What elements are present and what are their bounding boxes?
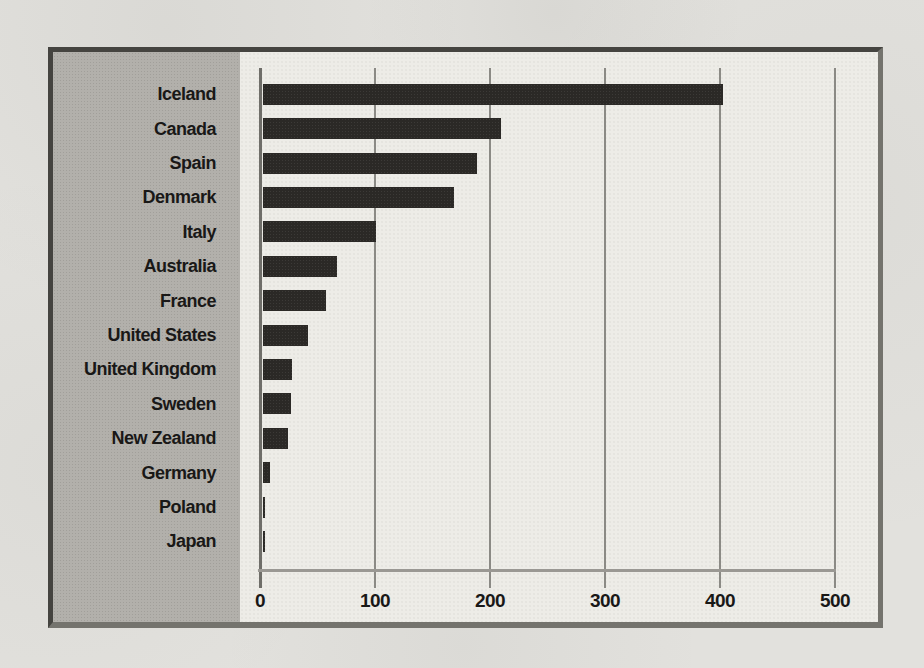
- x-tick-label-500: 500: [805, 590, 865, 612]
- category-label-new-zealand: New Zealand: [53, 426, 216, 450]
- category-label-panel: IcelandCanadaSpainDenmarkItalyAustraliaF…: [53, 52, 240, 622]
- x-axis-line: [258, 569, 836, 572]
- category-label-united-kingdom: United Kingdom: [53, 357, 216, 381]
- bar-united-states: [263, 325, 308, 346]
- bar-iceland: [263, 84, 723, 105]
- bar-denmark: [263, 187, 454, 208]
- category-label-iceland: Iceland: [53, 82, 216, 106]
- gridline-100: [374, 68, 376, 588]
- category-label-japan: Japan: [53, 529, 216, 553]
- category-label-denmark: Denmark: [53, 185, 216, 209]
- x-tick-label-100: 100: [345, 590, 405, 612]
- chart-frame: IcelandCanadaSpainDenmarkItalyAustraliaF…: [48, 47, 883, 628]
- bar-spain: [263, 153, 477, 174]
- scanned-page: IcelandCanadaSpainDenmarkItalyAustraliaF…: [0, 0, 924, 668]
- gridline-300: [604, 68, 606, 588]
- bar-france: [263, 290, 326, 311]
- bar-new-zealand: [263, 428, 288, 449]
- category-label-spain: Spain: [53, 151, 216, 175]
- category-label-australia: Australia: [53, 254, 216, 278]
- bar-japan: [263, 531, 265, 552]
- category-label-france: France: [53, 289, 216, 313]
- category-label-canada: Canada: [53, 117, 216, 141]
- gridline-500: [834, 68, 836, 588]
- bar-united-kingdom: [263, 359, 292, 380]
- gridline-400: [719, 68, 721, 588]
- category-label-italy: Italy: [53, 220, 216, 244]
- bar-australia: [263, 256, 337, 277]
- bar-canada: [263, 118, 501, 139]
- bar-italy: [263, 221, 376, 242]
- x-tick-label-400: 400: [690, 590, 750, 612]
- category-label-poland: Poland: [53, 495, 216, 519]
- x-tick-label-300: 300: [575, 590, 635, 612]
- gridline-200: [489, 68, 491, 588]
- category-label-sweden: Sweden: [53, 392, 216, 416]
- chart-inner: IcelandCanadaSpainDenmarkItalyAustraliaF…: [53, 52, 877, 622]
- bar-germany: [263, 462, 270, 483]
- bar-poland: [263, 497, 265, 518]
- category-label-germany: Germany: [53, 461, 216, 485]
- x-tick-label-200: 200: [460, 590, 520, 612]
- y-axis-zero-line: [259, 68, 262, 588]
- category-label-united-states: United States: [53, 323, 216, 347]
- plot-area: 0100200300400500: [240, 52, 878, 622]
- bar-sweden: [263, 393, 291, 414]
- x-tick-label-0: 0: [230, 590, 290, 612]
